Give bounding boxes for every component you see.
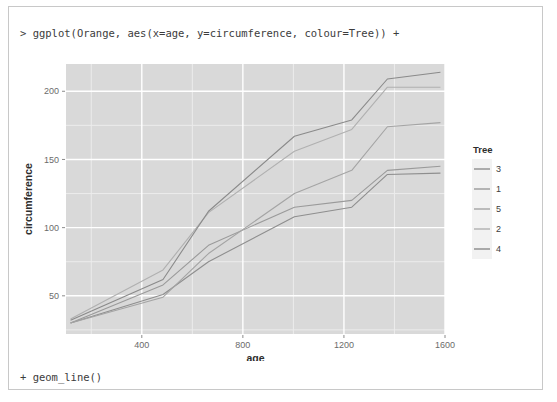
r-console-card: > ggplot(Orange, aes(x=age, y=circumfere… [8,6,543,390]
y-tick-label: 50 [49,291,59,301]
x-tick-label: 800 [235,340,250,350]
screenshot-root: > ggplot(Orange, aes(x=age, y=circumfere… [0,0,557,402]
x-tick-label: 1200 [334,340,354,350]
legend-label-5: 5 [496,204,501,214]
x-tick-label: 400 [134,340,149,350]
plot-panel-background [66,64,445,334]
legend-label-1: 1 [496,184,501,194]
y-axis-title: circumference [22,163,34,235]
legend-title: Tree [473,144,493,155]
legend-label-4: 4 [496,244,501,254]
y-tick-label: 100 [44,223,59,233]
ggplot-output: 4008001200160050100150200agecircumferenc… [18,51,534,361]
x-tick-label: 1600 [435,340,455,350]
console-continuation-line[interactable]: + geom_line() [20,371,102,383]
legend-label-3: 3 [496,164,501,174]
x-axis-title: age [246,352,264,361]
legend-label-2: 2 [496,224,501,234]
console-input-line[interactable]: > ggplot(Orange, aes(x=age, y=circumfere… [20,27,399,39]
y-tick-label: 200 [44,86,59,96]
scatter-line-chart: 4008001200160050100150200agecircumferenc… [18,51,534,361]
y-tick-label: 150 [44,155,59,165]
